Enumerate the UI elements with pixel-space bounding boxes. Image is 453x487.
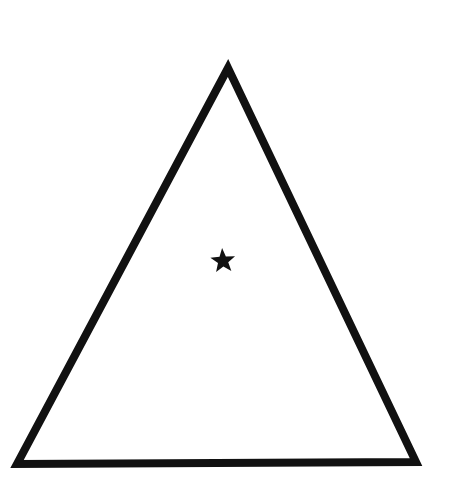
image-canvas: A large black outlined triangle pointing… <box>0 0 453 487</box>
figure-svg <box>0 0 453 487</box>
